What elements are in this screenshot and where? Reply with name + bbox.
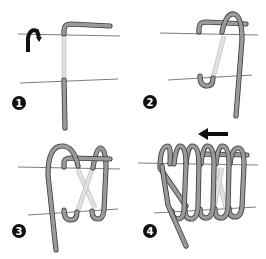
wire-behind — [78, 170, 95, 210]
wire — [64, 24, 110, 128]
step-number: 3 — [16, 226, 23, 237]
wrapping-diagram: 1 2 — [0, 0, 266, 259]
top-guide-line — [18, 34, 120, 36]
step-badge-2: 2 — [143, 95, 157, 109]
step-number: 4 — [147, 226, 154, 237]
wire-behind — [213, 36, 224, 78]
arrow-left-icon — [198, 128, 228, 140]
step-badge-1: 1 — [12, 96, 26, 110]
step-2-panel: 2 — [143, 14, 258, 116]
wire — [48, 146, 110, 250]
wire — [160, 146, 247, 246]
curved-arrow-down-icon — [28, 30, 42, 52]
step-number: 2 — [147, 97, 154, 108]
step-3-panel: 3 — [12, 146, 120, 250]
wire — [199, 14, 246, 116]
step-number: 1 — [16, 98, 23, 109]
step-4-panel: 4 — [138, 128, 258, 246]
bottom-guide-line — [20, 79, 118, 83]
step-1-panel: 1 — [12, 24, 120, 128]
step-badge-4: 4 — [143, 224, 157, 238]
step-badge-3: 3 — [12, 224, 26, 238]
